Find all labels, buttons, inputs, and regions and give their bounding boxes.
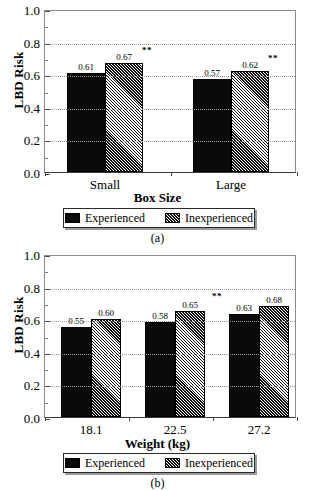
y-tick-mark <box>45 386 50 387</box>
legend-a: Experienced Inexperienced <box>63 208 255 228</box>
y-minor-tick-mark <box>45 27 48 28</box>
legend-label: Experienced <box>85 456 145 471</box>
x-tick-mark <box>171 172 172 176</box>
significance-mark: ** <box>212 291 222 301</box>
y-tick-mark <box>45 419 50 420</box>
plot-wrap-a: LBD Risk 0.61 0.67 ** 0.57 0.62 ** Small <box>0 0 315 200</box>
bar-small-inexperienced: 0.67 ** <box>105 63 143 172</box>
y-tick-mark <box>45 11 50 12</box>
y-tick-label: 1.0 <box>24 248 40 264</box>
legend-swatch-hatch-icon <box>165 213 180 223</box>
plot-area-a: 0.61 0.67 ** 0.57 0.62 ** Small Large 0.… <box>44 10 296 173</box>
bar-value-label: 0.63 <box>236 303 252 313</box>
panel-caption-b: (b) <box>0 476 315 491</box>
y-tick-mark <box>45 141 50 142</box>
y-tick-label: 0.2 <box>24 378 40 394</box>
y-minor-tick-mark <box>45 158 48 159</box>
significance-mark: ** <box>268 53 278 63</box>
bar-18-1-experienced: 0.55 <box>61 327 91 417</box>
x-axis-title-a: Box Size <box>0 190 315 206</box>
y-minor-tick-mark <box>45 338 48 339</box>
plot-wrap-b: LBD Risk 0.55 0.60 0.58 0.65 ** 0.63 0.6… <box>0 240 315 440</box>
y-minor-tick-mark <box>45 272 48 273</box>
x-tick-mark <box>129 417 130 421</box>
bar-large-inexperienced: 0.62 ** <box>231 71 269 172</box>
y-tick-mark <box>45 76 50 77</box>
bar-small-experienced: 0.61 <box>67 73 105 172</box>
y-tick-label: 0.8 <box>24 36 40 52</box>
bar-value-label: 0.61 <box>78 62 94 72</box>
grid-line <box>45 109 295 110</box>
bar-value-label: 0.60 <box>98 308 114 318</box>
x-tick-mark <box>297 417 298 421</box>
y-tick-mark <box>45 44 50 45</box>
y-minor-tick-mark <box>45 403 48 404</box>
y-tick-label: 1.0 <box>24 3 40 19</box>
grid-line <box>45 44 295 45</box>
x-axis-title-b: Weight (kg) <box>0 436 315 452</box>
y-tick-mark <box>45 174 50 175</box>
bar-large-experienced: 0.57 <box>193 79 231 172</box>
y-tick-label: 0.8 <box>24 281 40 297</box>
x-tick-mark <box>213 417 214 421</box>
bar-value-label: 0.67 <box>116 52 132 62</box>
bar-27-2-experienced: 0.63 <box>229 314 259 417</box>
significance-mark: ** <box>142 45 152 55</box>
y-minor-tick-mark <box>45 370 48 371</box>
legend-swatch-solid-icon <box>65 213 80 223</box>
legend-entry-inexperienced: Inexperienced <box>165 211 253 226</box>
legend-label: Inexperienced <box>185 456 253 471</box>
legend-entry-inexperienced: Inexperienced <box>165 456 253 471</box>
legend-entry-experienced: Experienced <box>65 211 145 226</box>
grid-line <box>45 76 295 77</box>
legend-label: Experienced <box>85 211 145 226</box>
bar-27-2-inexperienced: 0.68 <box>259 306 289 417</box>
x-tick-mark <box>297 172 298 176</box>
y-minor-tick-mark <box>45 305 48 306</box>
legend-b: Experienced Inexperienced <box>63 453 255 473</box>
grid-line <box>45 289 295 290</box>
y-tick-label: 0.6 <box>24 68 40 84</box>
y-minor-tick-mark <box>45 60 48 61</box>
legend-entry-experienced: Experienced <box>65 456 145 471</box>
y-minor-tick-mark <box>45 125 48 126</box>
bar-value-label: 0.62 <box>242 60 258 70</box>
y-tick-mark <box>45 256 50 257</box>
bar-22-5-inexperienced: 0.65 ** <box>175 311 205 417</box>
y-minor-tick-mark <box>45 93 48 94</box>
legend-label: Inexperienced <box>185 211 253 226</box>
chart-panel-a: LBD Risk 0.61 0.67 ** 0.57 0.62 ** Small <box>0 0 315 240</box>
bar-value-label: 0.58 <box>152 311 168 321</box>
chart-panel-b: LBD Risk 0.55 0.60 0.58 0.65 ** 0.63 0.6… <box>0 240 315 484</box>
legend-swatch-solid-icon <box>65 458 80 468</box>
grid-line <box>45 386 295 387</box>
y-tick-mark <box>45 321 50 322</box>
legend-swatch-hatch-icon <box>165 458 180 468</box>
y-tick-label: 0.2 <box>24 133 40 149</box>
bar-value-label: 0.65 <box>182 300 198 310</box>
y-tick-label: 0.0 <box>24 166 40 182</box>
bar-22-5-experienced: 0.58 <box>145 322 175 417</box>
plot-area-b: 0.55 0.60 0.58 0.65 ** 0.63 0.68 18.1 <box>44 255 296 418</box>
y-tick-mark <box>45 354 50 355</box>
y-tick-label: 0.4 <box>24 346 40 362</box>
y-tick-mark <box>45 109 50 110</box>
y-tick-label: 0.6 <box>24 313 40 329</box>
bar-18-1-inexperienced: 0.60 <box>91 319 121 417</box>
grid-line <box>45 354 295 355</box>
grid-line <box>45 141 295 142</box>
grid-line <box>45 321 295 322</box>
y-tick-mark <box>45 289 50 290</box>
y-tick-label: 0.4 <box>24 101 40 117</box>
y-tick-label: 0.0 <box>24 411 40 427</box>
bar-value-label: 0.68 <box>266 295 282 305</box>
